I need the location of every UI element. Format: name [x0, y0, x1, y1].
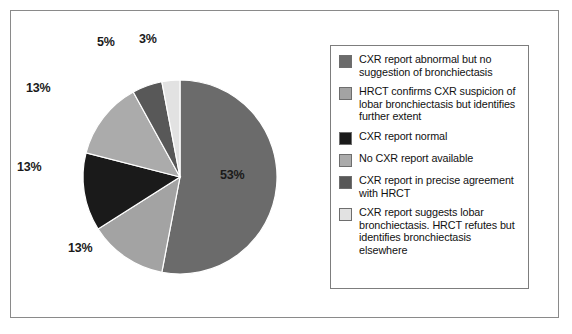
- legend-item-label: CXR report suggests lobar bronchiectasis…: [359, 206, 522, 256]
- legend-swatch-icon: [339, 132, 352, 145]
- legend-swatch-icon: [339, 176, 352, 189]
- legend-item-label: CXR report abnormal but no suggestion of…: [359, 53, 522, 78]
- legend-swatch-icon: [339, 154, 352, 167]
- legend-item-label: HRCT confirms CXR suspicion of lobar bro…: [359, 85, 522, 123]
- pie-label-13-upperleft: 13%: [26, 81, 50, 95]
- legend-swatch-icon: [339, 208, 352, 221]
- legend-item[interactable]: CXR report in precise agreement with HRC…: [337, 174, 522, 199]
- legend-item-label: CXR report normal: [359, 130, 447, 143]
- figure-container: 53% 13% 13% 13% 5% 3% CXR report abnorma…: [0, 0, 572, 334]
- legend-swatch-icon: [339, 55, 352, 68]
- legend-item[interactable]: HRCT confirms CXR suspicion of lobar bro…: [337, 85, 522, 123]
- legend-item[interactable]: No CXR report available: [337, 152, 522, 167]
- legend-item-label: CXR report in precise agreement with HRC…: [359, 174, 522, 199]
- pie-svg: [20, 20, 320, 310]
- pie-slice-group: [83, 80, 277, 274]
- legend-item[interactable]: CXR report abnormal but no suggestion of…: [337, 53, 522, 78]
- pie-label-5: 5%: [97, 35, 115, 49]
- legend-item-label: No CXR report available: [359, 152, 473, 165]
- pie-label-53: 53%: [220, 168, 244, 182]
- legend-swatch-icon: [339, 87, 352, 100]
- pie-label-13-bottom: 13%: [68, 241, 92, 255]
- legend: CXR report abnormal but no suggestion of…: [330, 45, 529, 289]
- pie-label-3: 3%: [139, 32, 157, 46]
- legend-item[interactable]: CXR report normal: [337, 130, 522, 145]
- legend-item[interactable]: CXR report suggests lobar bronchiectasis…: [337, 206, 522, 256]
- pie-chart: 53% 13% 13% 13% 5% 3%: [20, 20, 320, 310]
- pie-label-13-left: 13%: [17, 160, 41, 174]
